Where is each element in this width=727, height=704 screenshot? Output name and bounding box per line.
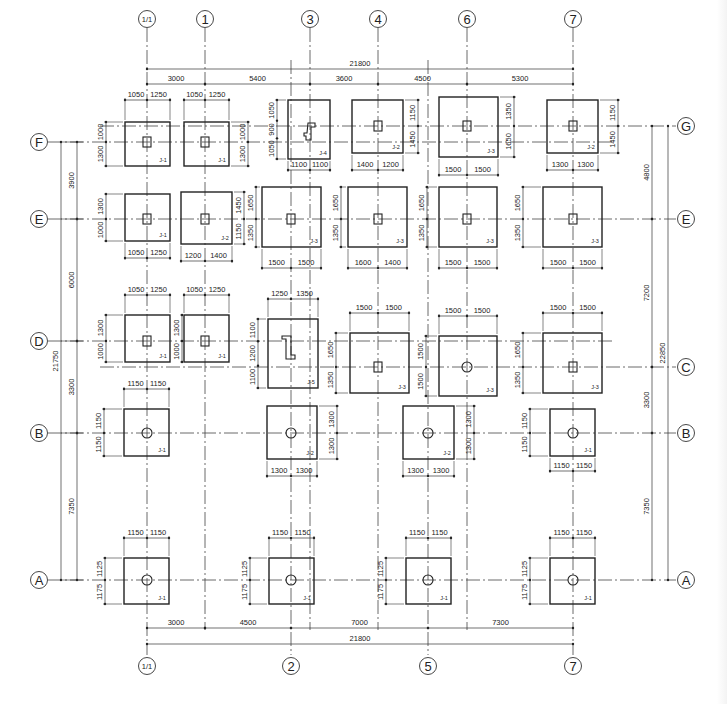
dimension-tick (466, 83, 468, 85)
dimension-text: 7300 (492, 618, 509, 627)
dimension-text: 1100 (248, 322, 257, 338)
dimension-tick (255, 218, 257, 220)
dimension-text: 7350 (67, 498, 76, 515)
dimension-text: 1150 (520, 413, 529, 429)
axis-label: 4 (374, 12, 381, 27)
dimension-text: 1250 (209, 285, 226, 294)
dimension-text: 1400 (357, 160, 374, 169)
footing-j-3: J-31500150016501350 (417, 186, 498, 270)
dimension-text: 1150 (150, 379, 166, 388)
dimension-text: 4800 (642, 164, 651, 181)
dimension-tick (466, 315, 468, 317)
dimension-text: 21750 (51, 351, 60, 372)
axis-label: 1/1 (142, 662, 152, 671)
dimension-tick (651, 125, 653, 127)
dimension-tick (667, 579, 669, 581)
dimension-text: 21800 (350, 59, 371, 68)
dimension-text: 1150 (127, 379, 143, 388)
dimension-text: 1650 (246, 195, 255, 212)
dimension-text: 1150 (234, 223, 243, 239)
dimension-text: 1175 (376, 584, 385, 600)
dimension-tick (309, 83, 311, 85)
dimension-text: 1150 (150, 528, 166, 537)
dimension-text: 3300 (642, 392, 651, 409)
dimension-text: 1500 (550, 303, 567, 312)
dimension-text: 1300 (296, 466, 313, 475)
footing-label: J-1 (584, 595, 592, 601)
dimension-tick (249, 579, 251, 581)
axis-label: 2 (287, 659, 294, 674)
dimension-tick (276, 137, 278, 139)
dimension-tick (377, 267, 379, 269)
footing-j-3: J-31600140016501350 (331, 186, 408, 270)
footing-j-3: J-31500150016501350 (513, 303, 603, 394)
dimension-text: 1300 (577, 160, 594, 169)
footing-label: J-2 (443, 450, 451, 456)
dimension-text: 1150 (94, 436, 103, 452)
dimension-text: 1350 (504, 103, 513, 120)
dimension-tick (385, 579, 387, 581)
dimension-tick (522, 218, 524, 220)
dimension-text: 1300 (552, 160, 569, 169)
dimension-tick (309, 169, 311, 171)
axis-label: B (682, 426, 691, 441)
dimension-text: 1125 (376, 561, 385, 577)
dimension-text: 1300 (464, 411, 473, 428)
dimension-text: 1050 (267, 102, 276, 119)
dimension-text: 1500 (550, 258, 567, 267)
dimension-tick (572, 169, 574, 171)
dimension-tick (247, 141, 249, 143)
footing-label: J-3 (591, 384, 599, 390)
footing-j-3: J-31500150016501350 (246, 186, 322, 270)
footing-j-1: J-11150115011251175 (520, 528, 596, 605)
dimension-text: 1650 (504, 133, 513, 150)
dimension-text: 1000 (238, 124, 247, 141)
dimension-tick (426, 218, 428, 220)
dimension-tick (105, 141, 107, 143)
dimension-tick (204, 294, 206, 296)
dimension-text: 1050 (128, 90, 145, 99)
dimension-tick (335, 366, 337, 368)
dimension-text: 1250 (150, 248, 167, 257)
dimension-text: 1350 (326, 372, 335, 389)
dimension-tick (427, 475, 429, 477)
dimension-text: 1500 (474, 258, 491, 267)
dimension-tick (257, 364, 259, 366)
dimension-text: 1050 (186, 285, 203, 294)
dimension-text: 1250 (209, 90, 226, 99)
dimension-text: 1175 (95, 584, 104, 600)
dimension-tick (651, 366, 653, 368)
dimension-text: 1300 (238, 146, 247, 163)
dimension-text: 1650 (513, 342, 522, 359)
dimension-tick (276, 119, 278, 121)
dimension-tick (473, 432, 475, 434)
footing-label: J-1 (440, 595, 448, 601)
dimension-tick (290, 627, 292, 629)
dimension-text: 1050 (128, 285, 145, 294)
axis-label: G (681, 119, 691, 134)
dimension-text: 1300 (433, 466, 450, 475)
footing-j-1: J-11050125010001300 (96, 90, 171, 167)
dimension-text: 7350 (642, 498, 651, 515)
dimension-text: 1500 (579, 303, 596, 312)
footing-label: J-1 (158, 595, 166, 601)
dimension-text: 1350 (417, 225, 426, 242)
dimension-tick (572, 643, 574, 645)
dimension-text: 1100 (248, 369, 257, 385)
dimension-text: 1450 (608, 131, 617, 148)
axis-label: C (681, 360, 690, 375)
dimension-text: 1650 (417, 195, 426, 212)
dimension-text: 1000 (96, 343, 105, 360)
dimension-tick (103, 432, 105, 434)
dimension-tick (617, 125, 619, 127)
axis-label: 6 (463, 12, 470, 27)
dimension-text: 1000 (96, 222, 105, 239)
dimension-text: 1150 (127, 528, 143, 537)
dimension-text: 900 (267, 123, 276, 136)
dimension-text: 1150 (520, 436, 529, 452)
dimension-text: 1350 (513, 225, 522, 242)
dimension-tick (651, 432, 653, 434)
dimension-text: 1150 (94, 413, 103, 429)
dimension-text: 1150 (576, 461, 592, 470)
dimension-text: 1200 (185, 251, 202, 260)
